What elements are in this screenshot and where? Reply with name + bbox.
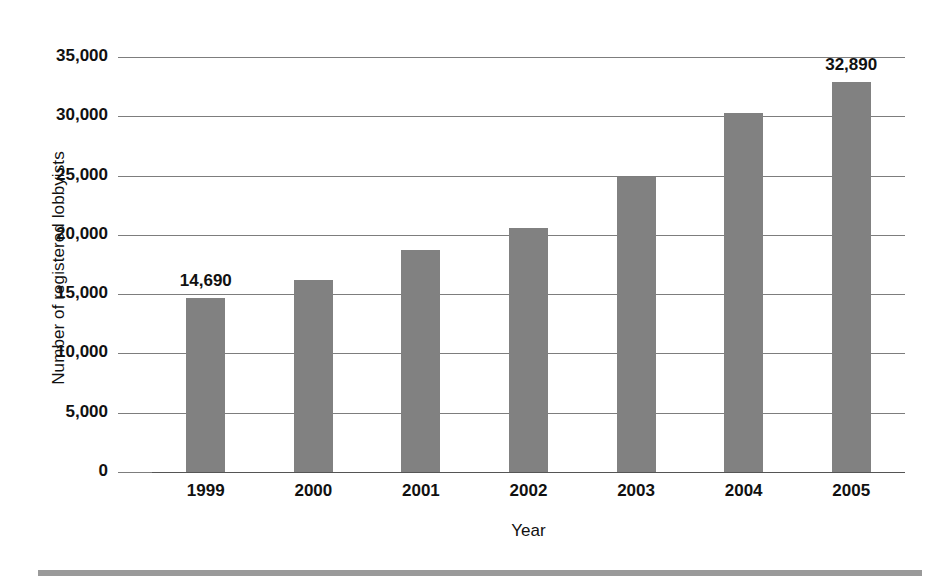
gridline-25000 xyxy=(152,176,905,177)
bar-value-label-2005: 32,890 xyxy=(791,55,911,75)
footer-rule xyxy=(38,570,922,576)
x-tick-label-2005: 2005 xyxy=(791,481,911,501)
y-tick-mark xyxy=(118,413,152,414)
y-tick-label: 30,000 xyxy=(0,105,108,125)
x-tick-label-2000: 2000 xyxy=(253,481,373,501)
gridline-30000 xyxy=(152,116,905,117)
bar-2005 xyxy=(832,82,871,472)
y-tick-mark xyxy=(118,353,152,354)
x-tick-label-2001: 2001 xyxy=(361,481,481,501)
bar-2004 xyxy=(724,113,763,472)
y-tick-label: 15,000 xyxy=(0,283,108,303)
y-tick-mark xyxy=(118,57,152,58)
chart-figure: Number of registered lobbyists 05,00010,… xyxy=(0,0,942,581)
y-tick-label: 25,000 xyxy=(0,165,108,185)
x-tick-label-2002: 2002 xyxy=(469,481,589,501)
bar-1999 xyxy=(186,298,225,472)
bar-2002 xyxy=(509,228,548,472)
y-tick-label: 35,000 xyxy=(0,46,108,66)
bar-2000 xyxy=(294,280,333,472)
y-tick-label: 10,000 xyxy=(0,342,108,362)
gridline-0 xyxy=(152,472,905,473)
bar-2003 xyxy=(617,177,656,472)
plot-area: 05,00010,00015,00020,00025,00030,00035,0… xyxy=(152,57,905,472)
y-tick-mark xyxy=(118,116,152,117)
y-tick-mark xyxy=(118,472,152,473)
bar-value-label-1999: 14,690 xyxy=(146,271,266,291)
x-axis-title: Year xyxy=(152,521,905,541)
y-tick-mark xyxy=(118,235,152,236)
y-tick-label: 0 xyxy=(0,461,108,481)
y-tick-mark xyxy=(118,294,152,295)
y-tick-label: 5,000 xyxy=(0,402,108,422)
x-tick-label-2004: 2004 xyxy=(684,481,804,501)
y-tick-mark xyxy=(118,176,152,177)
bar-2001 xyxy=(401,250,440,472)
x-tick-label-1999: 1999 xyxy=(146,481,266,501)
y-tick-label: 20,000 xyxy=(0,224,108,244)
x-tick-label-2003: 2003 xyxy=(576,481,696,501)
